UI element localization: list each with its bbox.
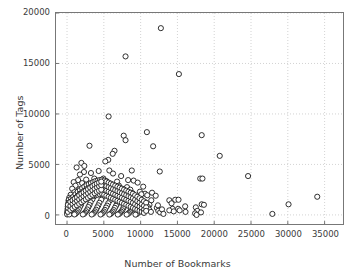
data-point	[141, 184, 146, 189]
data-point	[126, 178, 131, 183]
data-point	[119, 173, 124, 178]
y-tick-label: 20000	[6, 7, 50, 17]
y-tick-label: 15000	[6, 58, 50, 68]
data-point	[144, 130, 149, 135]
y-tick-label: 0	[6, 211, 50, 221]
data-point	[169, 201, 174, 206]
data-point	[171, 209, 176, 214]
data-point	[103, 159, 108, 164]
y-axis-title: Number of Tags	[14, 96, 25, 170]
data-point	[96, 168, 101, 173]
data-point	[176, 197, 181, 202]
data-point	[135, 180, 140, 185]
data-point	[148, 209, 153, 214]
data-point	[270, 211, 275, 216]
data-point	[89, 212, 94, 217]
data-point	[98, 212, 103, 217]
data-point	[123, 54, 128, 59]
plot-area	[55, 12, 344, 225]
data-point	[200, 176, 205, 181]
data-point	[198, 210, 203, 215]
y-tick-label: 10000	[6, 109, 50, 119]
scatter-plot-figure: 05000100001500020000250003000035000 0500…	[0, 0, 355, 278]
data-point	[74, 165, 79, 170]
data-point	[161, 211, 166, 216]
data-point	[99, 179, 104, 184]
data-point	[110, 151, 115, 156]
data-point	[80, 212, 85, 217]
data-point	[183, 204, 188, 209]
data-point	[129, 168, 134, 173]
x-axis-title: Number of Bookmarks	[0, 258, 355, 269]
data-point	[107, 212, 112, 217]
data-point	[199, 133, 204, 138]
data-point	[144, 208, 149, 213]
data-point	[157, 169, 162, 174]
data-point	[153, 193, 158, 198]
data-point	[110, 171, 115, 176]
data-point	[72, 212, 77, 217]
data-point	[183, 209, 188, 214]
data-point	[123, 138, 128, 143]
data-point	[286, 202, 291, 207]
data-points-layer	[56, 13, 343, 224]
data-point	[106, 114, 111, 119]
data-point	[217, 153, 222, 158]
data-point	[151, 144, 156, 149]
data-point	[158, 26, 163, 31]
data-point	[77, 172, 82, 177]
data-point	[176, 72, 181, 77]
data-point	[245, 173, 250, 178]
data-point	[115, 212, 120, 217]
y-tick-label: 5000	[6, 160, 50, 170]
data-point	[201, 202, 206, 207]
x-tick-label: 35000	[303, 229, 347, 239]
data-point	[315, 194, 320, 199]
data-point	[177, 208, 182, 213]
data-point	[82, 163, 87, 168]
data-point	[87, 143, 92, 148]
data-point	[124, 212, 129, 217]
data-point	[88, 170, 93, 175]
